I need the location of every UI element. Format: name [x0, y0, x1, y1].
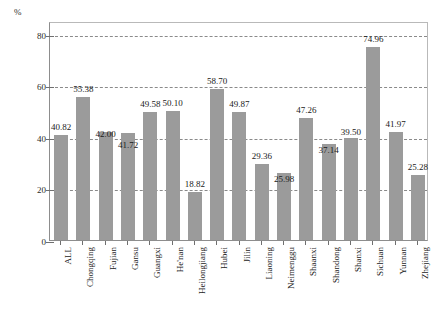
bar[interactable]	[99, 132, 113, 240]
bar-value-label: 29.36	[252, 152, 272, 161]
x-axis-category-label: Zhejiang	[421, 247, 430, 279]
bar-group[interactable]: 74.96	[362, 23, 384, 240]
bar[interactable]	[210, 89, 224, 240]
bar[interactable]	[255, 164, 269, 240]
x-tick-mark	[194, 241, 195, 245]
y-tick-label: 40	[33, 134, 46, 143]
x-axis-category-label: Fujian	[109, 247, 118, 270]
bar-value-label: 55.38	[73, 85, 93, 94]
bar-group[interactable]: 50.10	[161, 23, 183, 240]
x-tick-mark	[105, 241, 106, 245]
y-tick-mark	[46, 242, 54, 243]
bar-value-label: 25.28	[408, 163, 428, 172]
x-tick-mark	[127, 241, 128, 245]
x-axis-category-label: He'nan	[176, 247, 185, 272]
x-tick-mark	[172, 241, 173, 245]
x-axis-category-label: Gansu	[131, 247, 140, 270]
x-tick-mark	[395, 241, 396, 245]
bars-layer: 40.8255.3842.0041.7249.5850.1018.8258.70…	[50, 23, 427, 240]
bar[interactable]	[188, 192, 202, 240]
bar-value-label: 49.87	[229, 100, 249, 109]
bar-value-label: 37.14	[319, 146, 339, 155]
x-axis-category-label: Jilin	[243, 247, 252, 263]
x-axis-category-label: ALL	[64, 247, 73, 265]
bar[interactable]	[389, 132, 403, 240]
bar-value-label: 42.00	[96, 130, 116, 139]
bar-group[interactable]: 25.28	[407, 23, 429, 240]
x-axis-category-label: Chongqing	[86, 247, 95, 287]
x-axis-category-label: Shandong	[332, 247, 341, 283]
x-tick-mark	[283, 241, 284, 245]
x-axis-category-label: Liaoning	[265, 247, 274, 280]
bar[interactable]	[232, 112, 246, 240]
bar-value-label: 58.70	[207, 77, 227, 86]
bar-group[interactable]: 29.36	[251, 23, 273, 240]
bar-group[interactable]: 37.14	[318, 23, 340, 240]
bar-value-label: 41.72	[118, 141, 138, 150]
x-tick-mark	[350, 241, 351, 245]
x-tick-mark	[328, 241, 329, 245]
bar-group[interactable]: 18.82	[184, 23, 206, 240]
bar-group[interactable]: 41.72	[117, 23, 139, 240]
x-tick-mark	[149, 241, 150, 245]
bar-group[interactable]: 55.38	[72, 23, 94, 240]
x-tick-mark	[261, 241, 262, 245]
bar-value-label: 25.98	[274, 175, 294, 184]
bar-chart: % 020406080 40.8255.3842.0041.7249.5850.…	[0, 0, 445, 317]
x-axis-category-label: Guangxi	[153, 247, 162, 278]
x-axis-category-label: Hubei	[220, 247, 229, 269]
bar-group[interactable]: 42.00	[95, 23, 117, 240]
bar-group[interactable]: 49.87	[228, 23, 250, 240]
bar[interactable]	[344, 138, 358, 240]
bar[interactable]	[143, 112, 157, 240]
plot-area: 020406080 40.8255.3842.0041.7249.5850.10…	[49, 22, 428, 241]
x-tick-mark	[60, 241, 61, 245]
x-axis-category-label: Shanxi	[354, 247, 363, 272]
bar-value-label: 74.96	[363, 35, 383, 44]
bar-value-label: 50.10	[162, 99, 182, 108]
bar-value-label: 39.50	[341, 128, 361, 137]
bar-group[interactable]: 49.58	[139, 23, 161, 240]
bar-group[interactable]: 41.97	[384, 23, 406, 240]
bar[interactable]	[76, 97, 90, 240]
bar[interactable]	[299, 118, 313, 240]
y-axis-unit-label: %	[14, 8, 22, 17]
bar[interactable]	[166, 111, 180, 240]
bar-group[interactable]: 58.70	[206, 23, 228, 240]
x-axis-category-label: Neimenggu	[287, 247, 296, 289]
bar-group[interactable]: 47.26	[295, 23, 317, 240]
x-tick-mark	[305, 241, 306, 245]
x-axis-category-label: Yunnan	[399, 247, 408, 275]
y-tick-label: 60	[33, 83, 46, 92]
x-tick-mark	[82, 241, 83, 245]
bar-group[interactable]: 25.98	[273, 23, 295, 240]
x-axis-category-label: Sichuan	[376, 247, 385, 276]
bar-value-label: 41.97	[385, 120, 405, 129]
x-axis-category-label: Shaanxi	[309, 247, 318, 276]
bar[interactable]	[322, 144, 336, 240]
x-tick-mark	[239, 241, 240, 245]
bar-group[interactable]: 40.82	[50, 23, 72, 240]
bar-value-label: 47.26	[296, 106, 316, 115]
y-tick-label: 0	[33, 238, 46, 247]
x-axis-category-label: Heilongjiang	[198, 247, 207, 294]
bar-value-label: 18.82	[185, 180, 205, 189]
bar[interactable]	[411, 175, 425, 240]
bar-group[interactable]: 39.50	[340, 23, 362, 240]
bar[interactable]	[54, 135, 68, 240]
x-tick-mark	[417, 241, 418, 245]
y-tick-label: 20	[33, 186, 46, 195]
bar[interactable]	[366, 47, 380, 240]
x-tick-mark	[216, 241, 217, 245]
y-tick-label: 80	[33, 31, 46, 40]
bar-value-label: 40.82	[51, 123, 71, 132]
bar-value-label: 49.58	[140, 100, 160, 109]
x-tick-mark	[372, 241, 373, 245]
